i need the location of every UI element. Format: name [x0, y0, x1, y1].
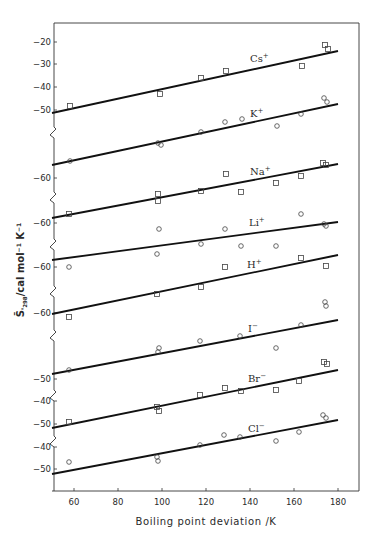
circle-marker	[297, 430, 302, 435]
square-marker	[325, 362, 330, 367]
square-marker	[322, 360, 327, 365]
square-marker	[299, 256, 304, 261]
series-label-H+: H+	[247, 258, 262, 270]
y-tick-label: −60	[33, 173, 51, 183]
circle-marker	[274, 439, 279, 444]
circle-marker	[157, 227, 162, 232]
y-axis-symbol: S̄	[14, 310, 26, 317]
circle-marker	[67, 265, 72, 270]
square-marker	[67, 315, 72, 320]
square-marker	[224, 69, 229, 74]
y-tick-label: −20	[33, 37, 51, 47]
circle-marker	[223, 120, 228, 125]
fit-line-Cl-	[52, 420, 338, 474]
y-tick-label: −50	[33, 464, 51, 474]
series-label-Li+: Li+	[249, 216, 265, 228]
square-marker	[274, 181, 279, 186]
y-tick-label: −50	[33, 374, 51, 384]
x-tick-label: 160	[286, 497, 302, 507]
fit-line-I-	[52, 320, 338, 374]
circle-marker	[239, 244, 244, 249]
square-marker	[68, 104, 73, 109]
circle-marker	[67, 460, 72, 465]
circle-marker	[222, 433, 227, 438]
y-axis-title: S̄⁰298/cal mol−1 K−1	[14, 223, 28, 318]
square-marker	[158, 92, 163, 97]
square-marker	[224, 172, 229, 177]
series-label-Cs+: Cs+	[250, 52, 269, 64]
fit-line-Br-	[52, 370, 338, 428]
square-marker	[300, 64, 305, 69]
fit-line-H+	[52, 255, 338, 314]
circle-marker	[299, 212, 304, 217]
fit-line-Na+	[52, 164, 338, 218]
square-marker	[324, 264, 329, 269]
series-label-K+: K+	[250, 107, 263, 119]
y-axis-ticks: −20−30−40−50−60−60−60−60−50−40−50−40−50	[33, 37, 57, 474]
y-tick-label: −40	[33, 442, 51, 452]
circle-marker	[325, 100, 330, 105]
circle-marker	[274, 244, 279, 249]
plot-frame	[50, 23, 359, 491]
square-marker	[274, 388, 279, 393]
square-marker	[299, 174, 304, 179]
y-tick-label: −50	[33, 419, 51, 429]
y-tick-label: −60	[33, 262, 51, 272]
square-marker	[321, 161, 326, 166]
y-tick-label: −30	[33, 59, 51, 69]
square-marker	[239, 190, 244, 195]
circle-marker	[324, 416, 329, 421]
series-label-Na+: Na+	[250, 165, 271, 177]
circle-marker	[275, 124, 280, 129]
fit-lines	[52, 51, 338, 474]
x-tick-label: 80	[113, 497, 124, 507]
y-tick-label: −60	[33, 308, 51, 318]
square-marker	[199, 285, 204, 290]
y-axis-subscript: 298	[22, 296, 28, 308]
circle-marker	[199, 242, 204, 247]
series-label-Cl-: Cl−	[248, 422, 265, 434]
square-marker	[156, 199, 161, 204]
scatter-chart: −20−30−40−50−60−60−60−60−50−40−50−40−50 …	[0, 0, 377, 536]
circle-marker	[223, 227, 228, 232]
x-tick-label: 180	[330, 497, 346, 507]
circle-marker	[274, 346, 279, 351]
x-tick-label: 60	[69, 497, 80, 507]
x-axis-title: Boiling point deviation /K	[135, 516, 276, 527]
fit-line-Li+	[52, 222, 338, 260]
series-label-I-: I−	[248, 322, 258, 334]
circle-marker	[240, 117, 245, 122]
y-tick-label: −60	[33, 218, 51, 228]
circle-marker	[198, 339, 203, 344]
square-marker	[156, 192, 161, 197]
y-tick-label: −50	[33, 105, 51, 115]
series-label-Br-: Br−	[248, 372, 266, 384]
x-tick-label: 100	[154, 497, 170, 507]
square-marker	[223, 386, 228, 391]
series-labels: Cs+K+Na+Li+H+I−Br−Cl−	[247, 52, 271, 434]
y-tick-label: −40	[33, 396, 51, 406]
x-tick-label: 120	[198, 497, 214, 507]
circle-marker	[155, 252, 160, 257]
circle-marker	[322, 96, 327, 101]
fit-line-K+	[52, 104, 338, 165]
x-tick-label: 140	[242, 497, 258, 507]
y-tick-label: −40	[33, 82, 51, 92]
square-marker	[223, 265, 228, 270]
fit-line-Cs+	[52, 51, 338, 113]
square-marker	[297, 379, 302, 384]
